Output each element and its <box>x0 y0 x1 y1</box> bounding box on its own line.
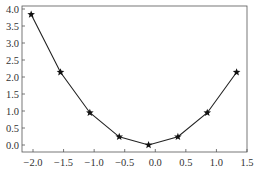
x-tick-label: −1.0 <box>85 157 104 168</box>
x-tick-label: 1.5 <box>240 157 253 168</box>
line-chart: 0.00.51.01.52.02.53.03.54.0 −2.0−1.5−1.0… <box>0 0 256 181</box>
x-tick-label: −1.5 <box>54 157 73 168</box>
x-tick-label: 1.0 <box>210 157 223 168</box>
y-tick-label: 3.5 <box>6 21 19 32</box>
star-marker-icon <box>27 10 35 17</box>
y-tick-label: 1.5 <box>6 89 19 100</box>
x-tick-label: −0.5 <box>115 157 134 168</box>
x-tick-label: 0.5 <box>179 157 192 168</box>
y-tick-label: 4.0 <box>6 4 19 15</box>
star-marker-icon <box>233 68 241 75</box>
y-tick-label: 0.5 <box>6 123 19 134</box>
data-line <box>31 14 236 145</box>
plot-frame <box>22 6 247 152</box>
x-tick-label: −2.0 <box>23 157 42 168</box>
data-markers <box>27 10 240 148</box>
y-tick-label: 1.0 <box>6 106 19 117</box>
star-marker-icon <box>57 68 65 75</box>
x-tick-label: 0.0 <box>149 157 162 168</box>
star-marker-icon <box>145 141 153 148</box>
y-tick-label: 2.0 <box>6 72 19 83</box>
y-tick-label: 3.0 <box>6 38 19 49</box>
y-tick-label: 0.0 <box>6 140 19 151</box>
y-tick-label: 2.5 <box>6 55 19 66</box>
